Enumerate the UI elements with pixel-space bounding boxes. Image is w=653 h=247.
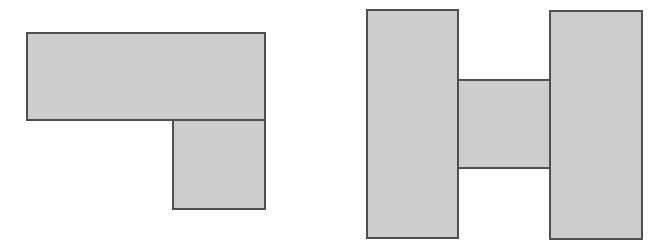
h-shape-right-bar <box>549 10 643 240</box>
l-shape-top-bar <box>26 32 266 121</box>
h-shape-middle-bar <box>457 79 551 169</box>
l-shape-bottom-square <box>172 119 266 210</box>
h-shape-left-bar <box>366 9 459 239</box>
